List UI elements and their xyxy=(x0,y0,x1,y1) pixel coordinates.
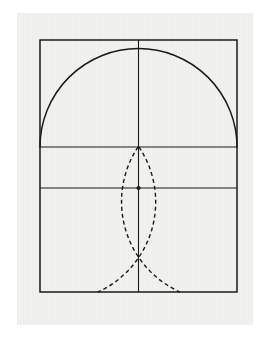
arcs-intersection-point xyxy=(136,186,140,190)
dashed-arc-centered-right xyxy=(122,147,180,292)
figure-page xyxy=(0,0,269,345)
geometric-drawing xyxy=(0,0,269,345)
